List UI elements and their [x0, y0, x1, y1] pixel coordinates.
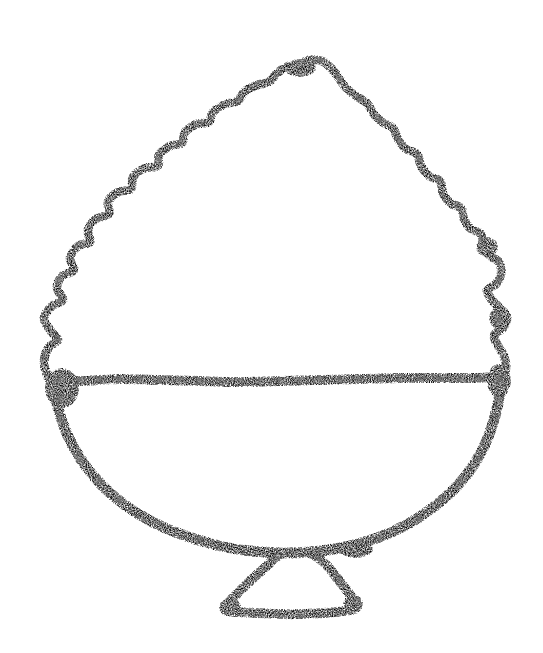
right-notch-blot [489, 307, 509, 329]
dessert-cup-drawing [0, 0, 543, 653]
bowl-right-foot-blot [339, 540, 373, 558]
rim-horizontal-line [50, 377, 500, 382]
sketch-canvas [0, 0, 543, 653]
foot-left-corner-blot [219, 598, 241, 616]
left-rim-junction-blot [45, 368, 79, 408]
cream-apex-blot [284, 59, 316, 77]
foot-right-corner-blot [343, 594, 363, 614]
right-rim-junction-blot [487, 364, 511, 398]
right-upper-blot [476, 237, 498, 257]
